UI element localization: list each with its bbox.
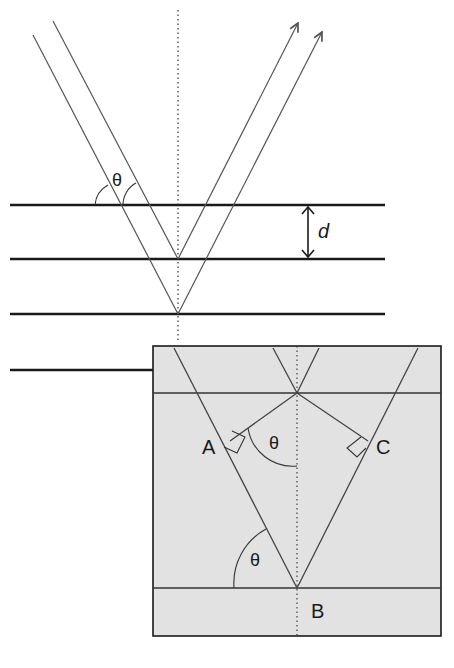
diagram-canvas: θ d θ θ A C B	[0, 0, 454, 668]
incident-ray-lower	[33, 35, 178, 314]
theta-arc-1	[95, 185, 108, 205]
point-a-label: A	[202, 436, 216, 458]
inset-theta-upper: θ	[269, 433, 279, 453]
point-b-label: B	[311, 600, 324, 622]
point-c-label: C	[376, 436, 390, 458]
inset-theta-lower: θ	[250, 550, 260, 570]
incident-rays	[33, 21, 178, 314]
spacing-label: d	[318, 220, 330, 242]
spacing-arrow	[302, 207, 314, 257]
reflected-rays	[178, 23, 322, 314]
theta-arc-2	[123, 183, 136, 205]
inset-detail: θ θ A C B	[153, 346, 441, 636]
reflected-ray-upper-arrow	[178, 23, 298, 259]
incident-ray-upper	[53, 21, 178, 259]
theta-label-top: θ	[112, 170, 122, 190]
reflected-ray-lower-arrow	[178, 32, 322, 314]
